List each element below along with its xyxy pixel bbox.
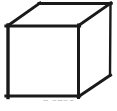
cube-line-drawing <box>0 0 117 111</box>
edge-back-right-vertical <box>110 3 111 76</box>
cube-face-front <box>7 25 78 97</box>
figure-canvas: a cube <box>0 0 117 111</box>
